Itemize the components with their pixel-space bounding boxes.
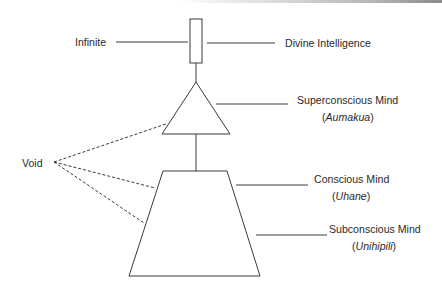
infinite-label: Infinite	[75, 36, 106, 49]
diagram-canvas: Infinite Divine Intelligence Superconsci…	[0, 0, 442, 291]
superconscious-hawaiian-label: (Aumakua)	[322, 111, 374, 124]
subconscious-hawaiian-label: (Unihipili)	[352, 240, 396, 253]
conscious-label: Conscious Mind	[314, 173, 389, 186]
infinite-rectangle	[190, 19, 202, 63]
divine-intelligence-label: Divine Intelligence	[285, 37, 371, 50]
conscious-hawaiian-label: (Uhane)	[332, 190, 370, 203]
subconscious-label: Subconscious Mind	[329, 223, 421, 236]
superconscious-label: Superconscious Mind	[297, 94, 398, 107]
superconscious-triangle	[162, 82, 230, 134]
void-label: Void	[22, 157, 43, 170]
void-dashed-lines	[54, 124, 166, 223]
